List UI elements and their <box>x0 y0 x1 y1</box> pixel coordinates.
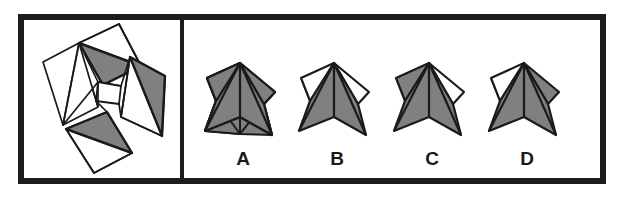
option-a-label: A <box>236 148 250 169</box>
option-d-label: D <box>520 148 534 169</box>
net-center-gap <box>96 82 121 104</box>
figure-canvas: A B C D <box>0 0 623 201</box>
spatial-reasoning-item: A B C D <box>0 0 623 201</box>
option-c-label: C <box>425 148 439 169</box>
option-b-label: B <box>330 148 344 169</box>
